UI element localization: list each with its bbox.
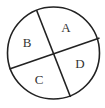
- region-label-b: B: [23, 35, 32, 50]
- region-label-c: C: [35, 72, 44, 87]
- region-label-a: A: [61, 20, 71, 35]
- divided-circle-diagram: A B C D: [0, 0, 105, 108]
- region-label-d: D: [75, 56, 84, 71]
